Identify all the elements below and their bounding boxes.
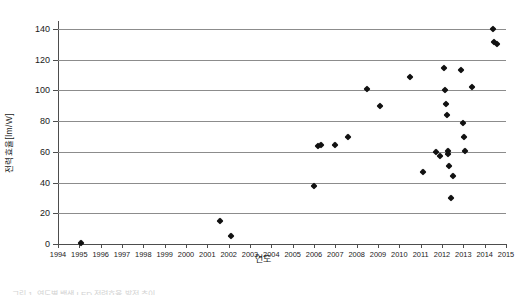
x-axis-tick <box>271 244 272 248</box>
x-axis-line <box>58 244 506 245</box>
data-point <box>377 102 384 109</box>
y-axis-tick-label: 120 <box>35 55 50 65</box>
x-axis-tick <box>463 244 464 248</box>
y-axis-tick-label: 60 <box>40 147 50 157</box>
y-axis-tick-label: 100 <box>35 85 50 95</box>
data-point <box>443 101 450 108</box>
x-axis-tick <box>229 244 230 248</box>
data-point <box>442 86 449 93</box>
y-axis-tick <box>53 152 58 153</box>
x-axis-tick <box>442 244 443 248</box>
x-axis-tick <box>101 244 102 248</box>
y-axis-tick-label: 0 <box>45 239 50 249</box>
gridline-y <box>58 183 506 184</box>
data-point <box>461 133 468 140</box>
y-axis-tick <box>53 213 58 214</box>
x-axis-tick <box>165 244 166 248</box>
data-point <box>406 73 413 80</box>
x-axis-title: 연도 <box>0 252 526 265</box>
y-axis-tick-label: 140 <box>35 24 50 34</box>
data-point <box>449 172 456 179</box>
data-point <box>217 217 224 224</box>
x-axis-tick <box>143 244 144 248</box>
data-point <box>332 141 339 148</box>
x-axis-tick <box>122 244 123 248</box>
data-point <box>458 67 465 74</box>
y-axis-tick-label: 40 <box>40 178 50 188</box>
data-point <box>444 111 451 118</box>
data-point <box>441 65 448 72</box>
data-point <box>446 163 453 170</box>
x-axis-tick <box>506 244 507 248</box>
x-axis-tick <box>378 244 379 248</box>
gridline-y <box>58 90 506 91</box>
plot-area: 0204060801001201401994199519961997199819… <box>58 29 506 244</box>
data-point <box>490 25 497 32</box>
x-axis-tick <box>293 244 294 248</box>
x-axis-tick <box>58 244 59 248</box>
gridline-y <box>58 121 506 122</box>
gridline-y <box>58 213 506 214</box>
x-axis-tick <box>421 244 422 248</box>
y-axis-tick <box>53 90 58 91</box>
y-axis-tick-label: 80 <box>40 116 50 126</box>
data-point <box>462 148 469 155</box>
gridline-y <box>58 29 506 30</box>
x-axis-tick <box>399 244 400 248</box>
figure-caption: 그림 1. 연도별 백색 LED 전력효율 발전 추이 <box>12 288 155 295</box>
gridline-y <box>58 60 506 61</box>
y-axis-tick <box>53 183 58 184</box>
y-axis-title: 전력효율[lm/W] <box>2 0 14 78</box>
y-axis-line <box>58 21 59 244</box>
x-axis-tick <box>314 244 315 248</box>
x-axis-tick <box>357 244 358 248</box>
data-point <box>494 40 501 47</box>
data-point <box>447 194 454 201</box>
y-axis-tick-label: 20 <box>40 208 50 218</box>
data-point <box>345 133 352 140</box>
y-axis-tick <box>53 60 58 61</box>
data-point <box>436 153 443 160</box>
x-axis-tick <box>207 244 208 248</box>
scatter-chart-figure: 전력효율[lm/W] 02040608010012014019941995199… <box>0 0 526 295</box>
y-axis-tick <box>53 29 58 30</box>
data-point <box>318 141 325 148</box>
x-axis-tick <box>335 244 336 248</box>
data-point <box>227 233 234 240</box>
y-axis-tick <box>53 121 58 122</box>
x-axis-tick <box>485 244 486 248</box>
x-axis-tick <box>186 244 187 248</box>
data-point <box>419 168 426 175</box>
x-axis-tick <box>250 244 251 248</box>
